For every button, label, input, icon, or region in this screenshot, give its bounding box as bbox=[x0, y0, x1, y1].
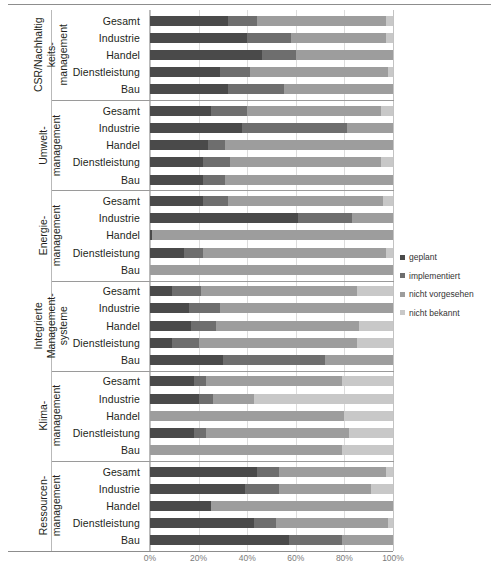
stacked-bar-chart: CSR/Nachhaltigkeits-managementGesamtIndu… bbox=[0, 0, 499, 574]
stacked-bar bbox=[150, 286, 393, 296]
chart-row: Bau bbox=[0, 351, 394, 368]
bar-segment-geplant bbox=[150, 484, 245, 494]
bar-segment-nicht-vorgesehen bbox=[325, 355, 393, 365]
bar-segment-nicht-bekannt bbox=[371, 484, 393, 494]
bar-segment-nicht-bekannt bbox=[386, 467, 393, 477]
bar-segment-nicht-bekannt bbox=[254, 394, 393, 404]
chart-row: Dienstleistung bbox=[0, 154, 394, 171]
chart-row: Industrie bbox=[0, 390, 394, 407]
bar-segment-implementiert bbox=[172, 338, 199, 348]
bar-segment-geplant bbox=[150, 123, 242, 133]
bar-segment-implementiert bbox=[257, 467, 279, 477]
chart-row: Gesamt bbox=[0, 12, 394, 29]
bar-segment-nicht-vorgesehen bbox=[199, 338, 357, 348]
row-label-dienstleistung: Dienstleistung bbox=[52, 334, 144, 351]
bar-segment-nicht-bekannt bbox=[386, 16, 393, 26]
chart-legend: geplantimplementiertnicht vorgesehennich… bbox=[400, 252, 499, 326]
stacked-bar bbox=[150, 467, 393, 477]
stacked-bar bbox=[150, 106, 393, 116]
bar-segment-nicht-vorgesehen bbox=[150, 411, 344, 421]
chart-row: Gesamt bbox=[0, 283, 394, 300]
row-label-handel: Handel bbox=[52, 407, 144, 424]
chart-row: Handel bbox=[0, 227, 394, 244]
bar-segment-nicht-bekannt bbox=[359, 321, 393, 331]
bar-segment-implementiert bbox=[228, 16, 257, 26]
x-tick-label: 100% bbox=[382, 553, 404, 563]
chart-row: Handel bbox=[0, 317, 394, 334]
bar-segment-implementiert bbox=[189, 303, 221, 313]
bar-segment-nicht-vorgesehen bbox=[225, 140, 393, 150]
bar-segment-implementiert bbox=[203, 175, 225, 185]
chart-row: Industrie bbox=[0, 29, 394, 46]
chart-row: Handel bbox=[0, 497, 394, 514]
row-label-gesamt: Gesamt bbox=[52, 463, 144, 480]
bar-segment-nicht-bekannt bbox=[386, 33, 393, 43]
bar-segment-geplant bbox=[150, 196, 203, 206]
bar-segment-nicht-vorgesehen bbox=[284, 84, 393, 94]
bar-segment-implementiert bbox=[203, 196, 227, 206]
bar-segment-implementiert bbox=[242, 123, 346, 133]
chart-row: Bau bbox=[0, 171, 394, 188]
bar-segment-geplant bbox=[150, 50, 262, 60]
bar-segment-implementiert bbox=[223, 355, 325, 365]
row-label-gesamt: Gesamt bbox=[52, 373, 144, 390]
x-tick-label: 60% bbox=[287, 553, 304, 563]
legend-swatch-icon bbox=[400, 273, 405, 278]
legend-label: geplant bbox=[409, 252, 437, 262]
legend-swatch-icon bbox=[400, 255, 405, 260]
chart-row: Handel bbox=[0, 407, 394, 424]
stacked-bar bbox=[150, 411, 393, 421]
legend-item[interactable]: geplant bbox=[400, 252, 499, 262]
bar-segment-nicht-bekannt bbox=[388, 518, 393, 528]
chart-row: Gesamt bbox=[0, 192, 394, 209]
row-label-dienstleistung: Dienstleistung bbox=[52, 154, 144, 171]
bar-segment-geplant bbox=[150, 535, 289, 545]
bar-segment-nicht-vorgesehen bbox=[342, 535, 393, 545]
row-label-gesamt: Gesamt bbox=[52, 283, 144, 300]
row-label-handel: Handel bbox=[52, 46, 144, 63]
chart-row: Dienstleistung bbox=[0, 424, 394, 441]
stacked-bar bbox=[150, 484, 393, 494]
legend-label: nicht vorgesehen bbox=[409, 289, 474, 299]
row-label-bau: Bau bbox=[52, 532, 144, 549]
bar-segment-nicht-bekannt bbox=[381, 106, 393, 116]
stacked-bar bbox=[150, 303, 393, 313]
bar-segment-implementiert bbox=[203, 157, 230, 167]
legend-item[interactable]: nicht vorgesehen bbox=[400, 289, 499, 299]
bar-segment-geplant bbox=[150, 376, 194, 386]
bar-segment-geplant bbox=[150, 67, 220, 77]
chart-row: Dienstleistung bbox=[0, 64, 394, 81]
bar-segment-implementiert bbox=[247, 33, 291, 43]
bar-segment-implementiert bbox=[194, 376, 206, 386]
chart-row: Dienstleistung bbox=[0, 334, 394, 351]
stacked-bar bbox=[150, 175, 393, 185]
x-tick-label: 80% bbox=[336, 553, 353, 563]
x-tick-label: 20% bbox=[190, 553, 207, 563]
row-label-industrie: Industrie bbox=[52, 300, 144, 317]
x-tick-label: 0% bbox=[144, 553, 156, 563]
bar-segment-geplant bbox=[150, 428, 194, 438]
bar-segment-nicht-vorgesehen bbox=[250, 67, 389, 77]
stacked-bar bbox=[150, 16, 393, 26]
bar-segment-nicht-vorgesehen bbox=[206, 376, 342, 386]
bar-segment-implementiert bbox=[208, 140, 225, 150]
legend-item[interactable]: nicht bekannt bbox=[400, 308, 499, 318]
stacked-bar bbox=[150, 376, 393, 386]
x-tick-label: 40% bbox=[239, 553, 256, 563]
bar-segment-nicht-bekannt bbox=[381, 157, 393, 167]
row-label-industrie: Industrie bbox=[52, 390, 144, 407]
bar-segment-geplant bbox=[150, 175, 203, 185]
bar-segment-geplant bbox=[150, 467, 257, 477]
bar-segment-nicht-vorgesehen bbox=[150, 445, 342, 455]
bar-segment-geplant bbox=[150, 355, 223, 365]
bar-segment-nicht-vorgesehen bbox=[150, 265, 393, 275]
bottom-divider bbox=[8, 551, 393, 552]
bar-segment-nicht-vorgesehen bbox=[279, 467, 386, 477]
legend-item[interactable]: implementiert bbox=[400, 271, 499, 281]
stacked-bar bbox=[150, 84, 393, 94]
row-label-industrie: Industrie bbox=[52, 119, 144, 136]
bar-segment-geplant bbox=[150, 157, 203, 167]
bar-segment-implementiert bbox=[211, 106, 247, 116]
legend-label: implementiert bbox=[409, 271, 460, 281]
bar-segment-nicht-vorgesehen bbox=[206, 428, 349, 438]
